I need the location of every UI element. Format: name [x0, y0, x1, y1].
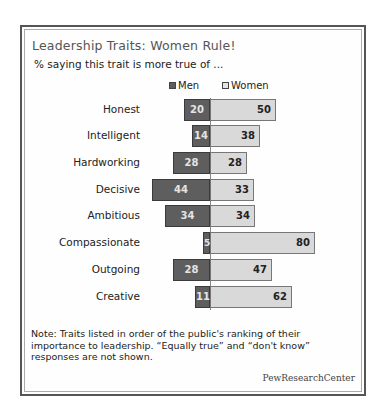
bar-men-creative: 11	[195, 286, 210, 308]
legend-swatch-men	[169, 82, 176, 89]
chart-subtitle: % saying this trait is more true of ...	[34, 58, 223, 70]
bar-men-intelligent: 14	[192, 125, 210, 147]
category-label: Decisive	[0, 183, 140, 195]
bar-men-outgoing: 28	[173, 259, 210, 281]
chart-title: Leadership Traits: Women Rule!	[32, 38, 236, 53]
bar-men-ambitious: 34	[165, 205, 210, 227]
legend-item-women: Women	[222, 80, 269, 91]
legend-label-women: Women	[231, 80, 269, 91]
bar-women-outgoing: 47	[210, 259, 272, 281]
bar-women-compassionate: 80	[210, 232, 315, 254]
bar-women-ambitious: 34	[210, 205, 255, 227]
chart-note: Note: Traits listed in order of the publ…	[31, 328, 351, 363]
bar-men-decisive: 44	[152, 179, 210, 201]
category-label: Intelligent	[0, 129, 140, 141]
bar-men-honest: 20	[184, 99, 210, 121]
bar-women-decisive: 33	[210, 179, 254, 201]
legend-label-men: Men	[178, 80, 199, 91]
bar-women-creative: 62	[210, 286, 292, 308]
category-label: Outgoing	[0, 263, 140, 275]
bar-women-intelligent: 38	[210, 125, 260, 147]
legend-item-men: Men	[169, 80, 199, 91]
legend-swatch-women	[222, 82, 229, 89]
category-label: Compassionate	[0, 236, 140, 248]
category-label: Honest	[0, 103, 140, 115]
source-credit: PewResearchCenter	[263, 373, 356, 383]
bar-men-compassionate: 5	[203, 232, 210, 254]
category-label: Ambitious	[0, 209, 140, 221]
bar-women-honest: 50	[210, 99, 276, 121]
category-label: Hardworking	[0, 156, 140, 168]
category-label: Creative	[0, 290, 140, 302]
bar-women-hardworking: 28	[210, 152, 247, 174]
bar-men-hardworking: 28	[173, 152, 210, 174]
